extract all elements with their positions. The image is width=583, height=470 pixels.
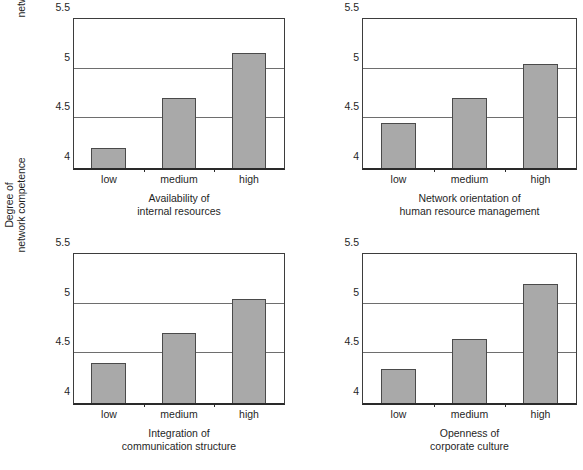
x-axis-tick-mark-1 [434,168,435,172]
x-tick-label-medium: medium [451,173,488,185]
panel-caption-line-2: communication structure [73,440,285,453]
x-tick-label-high: high [531,173,551,185]
panel-caption-line-1: Network orientation of [362,192,577,205]
bar-medium [162,98,197,168]
bar-low [91,148,126,168]
y-tick-label-5.5: 5.5 [55,236,70,248]
y-tick-label-5.5: 5.5 [344,236,359,248]
plot-area: 44.555.5lowmediumhigh [362,18,577,170]
y-axis-title-line-1: Degree of [3,182,16,227]
bar-medium [162,333,197,403]
x-axis-tick-mark-2 [214,168,215,172]
chart-panel-2: 44.555.5lowmediumhighNetwork orientation… [292,0,583,235]
y-tick-label-4: 4 [64,150,70,162]
bar-high [232,53,267,168]
y-tick-label-4: 4 [64,385,70,397]
bar-high [523,64,558,168]
panel-caption-line-2: human resource management [362,205,577,218]
x-tick-label-low: low [391,408,407,420]
x-tick-label-low: low [101,173,117,185]
y-tick-label-4: 4 [353,385,359,397]
panel-caption: Integration ofcommunication structure [73,427,285,452]
chart-panel-3: Degree ofnetwork competence44.555.5lowme… [0,235,292,470]
y-axis-title: Degree ofnetwork competence [2,0,28,44]
panel-caption-line-1: Integration of [73,427,285,440]
y-tick-label-4.5: 4.5 [55,100,70,112]
y-axis-title: Degree ofnetwork competence [2,131,28,279]
y-tick-label-4: 4 [353,150,359,162]
x-tick-label-high: high [239,173,259,185]
x-axis-tick-mark-1 [144,403,145,407]
panel-caption: Availability ofinternal resources [73,192,285,217]
x-tick-label-low: low [391,173,407,185]
panel-caption-line-2: corporate culture [362,440,577,453]
y-tick-label-5: 5 [64,286,70,298]
panel-caption-line-1: Openness of [362,427,577,440]
x-axis-tick-mark-2 [505,168,506,172]
y-tick-label-5.5: 5.5 [55,1,70,13]
y-axis-title-line-2: network competence [15,0,28,18]
x-axis-tick-mark-2 [505,403,506,407]
y-tick-label-5.5: 5.5 [344,1,359,13]
x-axis-tick-mark-2 [214,403,215,407]
plot-area: 44.555.5lowmediumhigh [362,253,577,405]
y-tick-label-5: 5 [353,286,359,298]
x-tick-label-high: high [239,408,259,420]
plot-area: 44.555.5lowmediumhigh [73,253,285,405]
y-tick-label-4.5: 4.5 [344,100,359,112]
bar-high [232,299,267,403]
x-tick-label-medium: medium [160,173,197,185]
y-tick-label-4.5: 4.5 [55,335,70,347]
chart-panel-4: 44.555.5lowmediumhighOpenness ofcorporat… [292,235,583,470]
panel-caption-line-2: internal resources [73,205,285,218]
panel-caption: Openness ofcorporate culture [362,427,577,452]
panel-caption-line-1: Availability of [73,192,285,205]
bar-low [381,369,416,403]
plot-area: 44.555.5lowmediumhigh [73,18,285,170]
x-axis-tick-mark-1 [144,168,145,172]
bar-chart-figure-grid: Degree ofnetwork competence44.555.5lowme… [0,0,583,470]
bar-high [523,284,558,403]
x-tick-label-medium: medium [451,408,488,420]
x-tick-label-low: low [101,408,117,420]
x-tick-label-high: high [531,408,551,420]
y-tick-label-4.5: 4.5 [344,335,359,347]
bar-medium [452,339,487,403]
y-tick-label-5: 5 [64,51,70,63]
panel-caption: Network orientation ofhuman resource man… [362,192,577,217]
chart-panel-1: Degree ofnetwork competence44.555.5lowme… [0,0,292,235]
bar-low [91,363,126,403]
bar-low [381,123,416,168]
y-axis-title-line-2: network competence [15,157,28,252]
bar-medium [452,98,487,168]
x-tick-label-medium: medium [160,408,197,420]
y-tick-label-5: 5 [353,51,359,63]
x-axis-tick-mark-1 [434,403,435,407]
